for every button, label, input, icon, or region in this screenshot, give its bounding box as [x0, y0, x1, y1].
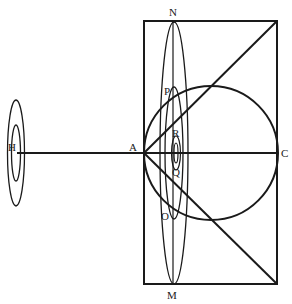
label-P: P: [164, 85, 170, 97]
label-N: N: [169, 6, 177, 18]
label-M: M: [167, 289, 177, 301]
optics-diagram: H A C N M P R Q O: [0, 0, 292, 304]
label-Q: Q: [172, 166, 180, 178]
label-H: H: [8, 141, 16, 153]
label-A: A: [129, 141, 137, 153]
label-R: R: [172, 127, 180, 139]
label-O: O: [161, 210, 169, 222]
label-C: C: [281, 147, 288, 159]
